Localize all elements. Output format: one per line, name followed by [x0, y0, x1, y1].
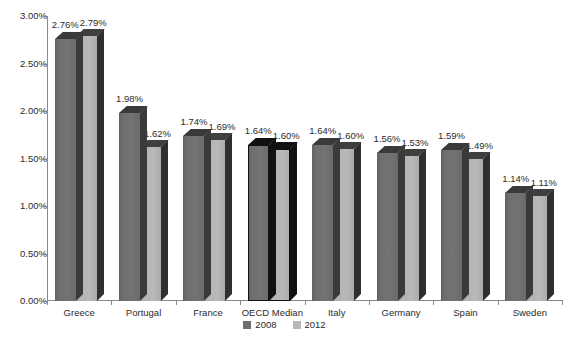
category-label-france: France [193, 308, 223, 318]
bar-2008 [119, 113, 140, 301]
bar-front-face [441, 150, 462, 301]
bar-front-face [119, 113, 140, 301]
legend-label: 2012 [305, 320, 326, 330]
legend-swatch-icon [293, 321, 301, 329]
value-label: 1.59% [431, 131, 471, 141]
bar-side-face [398, 146, 405, 301]
bar-group [47, 16, 111, 301]
bar-side-face [419, 149, 426, 301]
value-label: 2.79% [73, 18, 113, 28]
category-label-greece: Greece [64, 308, 95, 318]
bar-side-face [269, 138, 276, 301]
bar-chart: 0.00%0.50%1.00%1.50%2.00%2.50%3.00% 2.76… [0, 0, 569, 346]
category-label-oecd-median: OECD Median [242, 308, 303, 318]
bar-2008 [183, 136, 204, 301]
category-label-spain: Spain [453, 308, 477, 318]
x-tick-mark [562, 300, 563, 305]
bar-side-face [225, 133, 232, 301]
y-tick-label: 1.00% [7, 201, 47, 211]
bar-group [111, 16, 175, 301]
category-label-italy: Italy [328, 308, 345, 318]
y-tick-label: 2.00% [7, 106, 47, 116]
bar-group [369, 16, 433, 301]
bar-front-face [248, 145, 269, 301]
y-tick-label: 0.50% [7, 249, 47, 259]
legend-label: 2008 [255, 320, 276, 330]
bar-2008 [55, 39, 76, 301]
bar-side-face [161, 140, 168, 301]
bar-front-face [312, 145, 333, 301]
bar-side-face [290, 142, 297, 301]
bar-side-face [204, 129, 211, 301]
bar-group [498, 16, 562, 301]
legend-item-2008[interactable]: 2008 [243, 320, 276, 330]
bar-side-face [333, 138, 340, 301]
bar-side-face [547, 189, 554, 301]
bar-side-face [140, 106, 147, 301]
bar-2008 [505, 193, 526, 301]
bar-side-face [354, 142, 361, 301]
y-tick-label: 2.50% [7, 59, 47, 69]
bar-group [305, 16, 369, 301]
bar-2008 [312, 145, 333, 301]
bar-side-face [483, 152, 490, 301]
bar-side-face [462, 143, 469, 301]
plot-area [47, 16, 562, 301]
y-tick-label: 0.00% [7, 296, 47, 306]
bar-front-face [55, 39, 76, 301]
y-tick-label: 3.00% [7, 11, 47, 21]
category-label-sweden: Sweden [513, 308, 547, 318]
category-label-germany: Germany [382, 308, 421, 318]
category-label-portugal: Portugal [126, 308, 161, 318]
legend-swatch-icon [243, 321, 251, 329]
bar-2008 [441, 150, 462, 301]
bar-side-face [76, 32, 83, 301]
bar-side-face [97, 29, 104, 301]
bar-2008 [248, 145, 269, 301]
chart-legend: 20082012 [0, 320, 569, 330]
legend-item-2012[interactable]: 2012 [293, 320, 326, 330]
value-label: 1.98% [110, 94, 150, 104]
bar-group [240, 16, 304, 301]
bar-side-face [526, 186, 533, 301]
bar-2008 [377, 153, 398, 301]
bar-group [433, 16, 497, 301]
bar-front-face [377, 153, 398, 301]
bar-group [176, 16, 240, 301]
y-tick-label: 1.50% [7, 154, 47, 164]
bar-front-face [505, 193, 526, 301]
bar-front-face [183, 136, 204, 301]
